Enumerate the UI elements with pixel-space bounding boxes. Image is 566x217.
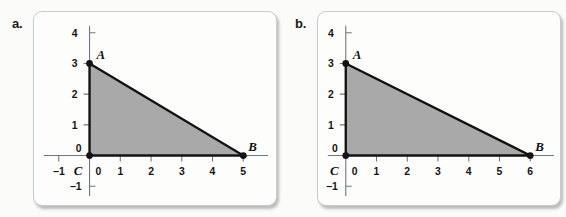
panel-b-xlabel-4: 4 bbox=[466, 166, 472, 177]
panel-b-vertex-B bbox=[527, 152, 534, 159]
panel-b: b. bbox=[283, 0, 566, 217]
panel-a-point-label-A: A bbox=[95, 48, 105, 62]
panel-b-xlabel-5: 5 bbox=[497, 166, 503, 177]
panel-b-ylabel-0: 0 bbox=[332, 143, 338, 154]
panel-b-ylabel--1: −1 bbox=[326, 181, 338, 192]
panel-a-xlabel-5: 5 bbox=[240, 166, 246, 177]
panel-a-xlabel-1: 1 bbox=[117, 166, 123, 177]
panel-a: a. bbox=[0, 0, 283, 217]
panel-a-vertex-C bbox=[86, 152, 93, 159]
panel-b-point-label-A: A bbox=[352, 48, 362, 62]
panel-a-ylabel-4: 4 bbox=[72, 28, 78, 39]
panel-b-vertex-A bbox=[342, 60, 349, 67]
panel-b-xlabel-0: 0 bbox=[352, 166, 358, 177]
panel-a-vertex-A bbox=[86, 60, 93, 67]
panel-a-svg: −1 0 1 2 3 4 5 4 3 2 1 0 −1 A B bbox=[34, 12, 276, 205]
panel-b-ylabel-4: 4 bbox=[328, 28, 334, 39]
panel-a-ylabel-0: 0 bbox=[76, 143, 82, 154]
panel-a-frame: −1 0 1 2 3 4 5 4 3 2 1 0 −1 A B bbox=[33, 11, 277, 206]
panel-b-xlabel-6: 6 bbox=[527, 166, 533, 177]
panel-a-xlabel-2: 2 bbox=[148, 166, 154, 177]
panel-a-ylabel-1: 1 bbox=[72, 120, 78, 131]
panel-b-point-label-B: B bbox=[534, 140, 544, 154]
panel-b-xlabel-2: 2 bbox=[404, 166, 410, 177]
panel-a-ylabel-3: 3 bbox=[72, 58, 78, 69]
panel-b-plot: 0 1 2 3 4 5 6 4 3 2 1 0 −1 A B bbox=[318, 12, 560, 205]
panel-b-ylabel-2: 2 bbox=[328, 89, 334, 100]
panel-b-xlabel-3: 3 bbox=[435, 166, 441, 177]
panel-a-xlabel-0: 0 bbox=[96, 166, 102, 177]
panel-a-point-label-C: C bbox=[74, 164, 83, 178]
two-panel-coordinate-figure: a. bbox=[0, 0, 566, 217]
panel-a-ylabel-2: 2 bbox=[72, 89, 78, 100]
panel-a-xlabel-4: 4 bbox=[210, 166, 216, 177]
panel-b-ylabel-3: 3 bbox=[328, 58, 334, 69]
panel-b-xlabel-1: 1 bbox=[374, 166, 380, 177]
panel-a-letter: a. bbox=[12, 16, 22, 31]
panel-b-ylabel-1: 1 bbox=[328, 120, 334, 131]
panel-b-vertex-C bbox=[342, 152, 349, 159]
panel-a-xlabel--1: −1 bbox=[53, 166, 65, 177]
panel-b-frame: 0 1 2 3 4 5 6 4 3 2 1 0 −1 A B bbox=[317, 11, 561, 206]
panel-b-letter: b. bbox=[295, 16, 306, 31]
panel-a-ylabel--1: −1 bbox=[70, 181, 82, 192]
panel-b-point-label-C: C bbox=[330, 164, 339, 178]
panel-a-xlabel-3: 3 bbox=[179, 166, 185, 177]
panel-a-point-label-B: B bbox=[247, 140, 257, 154]
panel-a-vertex-B bbox=[240, 152, 247, 159]
panel-b-svg: 0 1 2 3 4 5 6 4 3 2 1 0 −1 A B bbox=[318, 12, 560, 205]
panel-a-plot: −1 0 1 2 3 4 5 4 3 2 1 0 −1 A B bbox=[34, 12, 276, 205]
